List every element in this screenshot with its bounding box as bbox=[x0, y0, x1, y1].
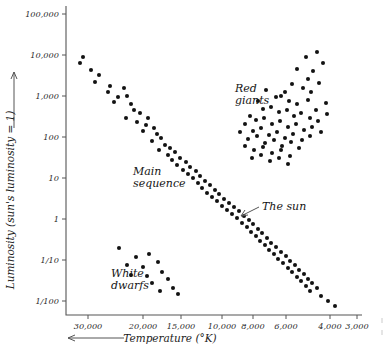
series-red-giants bbox=[238, 50, 329, 166]
data-point bbox=[270, 122, 274, 126]
data-point bbox=[317, 81, 321, 85]
data-point bbox=[304, 55, 308, 59]
data-point bbox=[132, 108, 136, 112]
x-tick-label: 30,000 bbox=[74, 321, 103, 331]
data-point bbox=[277, 156, 281, 160]
data-point bbox=[243, 122, 247, 126]
data-point bbox=[308, 134, 312, 138]
y-tick-label: 100,000 bbox=[25, 9, 59, 19]
data-point bbox=[112, 100, 116, 104]
data-point bbox=[175, 163, 179, 167]
annotation-the-sun: The sun bbox=[262, 200, 306, 213]
data-point bbox=[246, 137, 250, 141]
data-point bbox=[198, 174, 202, 178]
data-point bbox=[210, 195, 214, 199]
data-point bbox=[311, 69, 315, 73]
y-tick-label: 1/10 bbox=[41, 255, 59, 265]
data-point bbox=[158, 289, 162, 293]
data-point bbox=[117, 246, 121, 250]
data-point bbox=[173, 150, 177, 154]
data-point bbox=[286, 162, 290, 166]
data-point bbox=[287, 99, 291, 103]
data-point bbox=[243, 144, 247, 148]
y-tick-label: 10,000 bbox=[30, 50, 59, 60]
data-point bbox=[125, 94, 129, 98]
data-point bbox=[284, 254, 288, 258]
data-point bbox=[300, 138, 304, 142]
data-point bbox=[285, 108, 289, 112]
data-point bbox=[289, 140, 293, 144]
data-point bbox=[310, 125, 314, 129]
data-point bbox=[220, 204, 224, 208]
data-point bbox=[176, 292, 180, 296]
annotation-main-sequence: Mainsequence bbox=[132, 165, 186, 190]
data-point bbox=[297, 146, 301, 150]
data-point bbox=[281, 261, 285, 265]
data-point bbox=[222, 197, 226, 201]
data-point bbox=[283, 136, 287, 140]
data-point bbox=[157, 148, 161, 152]
data-point bbox=[155, 132, 159, 136]
data-point bbox=[152, 126, 156, 130]
x-tick-label: 20,000 bbox=[128, 321, 158, 331]
data-point bbox=[116, 95, 120, 99]
data-point bbox=[295, 102, 299, 106]
data-point bbox=[306, 98, 310, 102]
x-axis-arrow-icon bbox=[68, 335, 124, 341]
data-point bbox=[279, 148, 283, 152]
y-tick-label: 1 bbox=[54, 214, 59, 224]
data-point bbox=[302, 272, 306, 276]
data-point bbox=[279, 94, 283, 98]
data-point bbox=[258, 239, 262, 243]
data-point bbox=[78, 61, 82, 65]
data-point bbox=[249, 230, 253, 234]
data-point bbox=[186, 172, 190, 176]
data-point bbox=[295, 67, 299, 71]
data-point bbox=[269, 105, 273, 109]
data-point bbox=[240, 221, 244, 225]
data-point bbox=[283, 90, 287, 94]
data-point bbox=[290, 270, 294, 274]
data-point bbox=[134, 255, 138, 259]
data-point bbox=[319, 294, 323, 298]
annotation-line-2: giants bbox=[235, 94, 270, 107]
data-point bbox=[89, 68, 93, 72]
data-point bbox=[276, 257, 280, 261]
data-point bbox=[237, 209, 241, 213]
data-point bbox=[135, 120, 139, 124]
x-tick-label: 10,000 bbox=[208, 321, 237, 331]
data-point bbox=[299, 111, 303, 115]
data-point bbox=[262, 116, 266, 120]
data-point bbox=[259, 126, 263, 130]
data-point bbox=[217, 192, 221, 196]
x-tick-label: 6,000 bbox=[274, 321, 297, 331]
data-point bbox=[259, 153, 263, 157]
y-tick-label: 100 bbox=[43, 132, 59, 142]
data-point bbox=[106, 90, 110, 94]
data-point bbox=[256, 227, 260, 231]
data-point bbox=[302, 128, 306, 132]
data-point bbox=[232, 205, 236, 209]
x-tick-label: 8,000 bbox=[241, 321, 264, 331]
data-point bbox=[163, 143, 167, 147]
data-point bbox=[314, 108, 318, 112]
data-point bbox=[308, 289, 312, 293]
data-point bbox=[333, 304, 337, 308]
data-point bbox=[252, 148, 256, 152]
page-edge-artifact bbox=[381, 318, 383, 323]
data-point bbox=[324, 101, 328, 105]
data-point bbox=[138, 111, 142, 115]
data-point bbox=[272, 252, 276, 256]
data-point bbox=[261, 107, 265, 111]
data-point bbox=[292, 114, 296, 118]
data-point bbox=[227, 201, 231, 205]
data-point bbox=[225, 208, 229, 212]
data-point bbox=[230, 212, 234, 216]
data-point bbox=[270, 151, 274, 155]
data-point bbox=[309, 90, 313, 94]
data-point bbox=[178, 156, 182, 160]
data-point bbox=[203, 179, 207, 183]
data-point bbox=[254, 118, 258, 122]
data-point bbox=[264, 88, 268, 92]
data-point bbox=[247, 218, 251, 222]
